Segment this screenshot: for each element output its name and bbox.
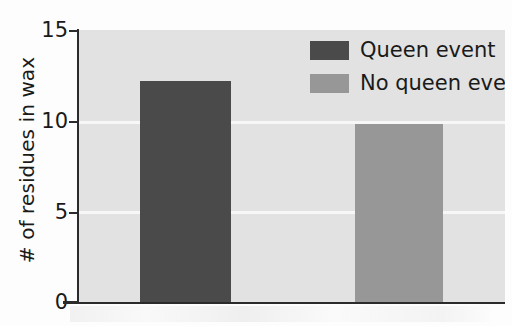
y-tick-label-0: 0 (28, 292, 68, 313)
legend-swatch-no-queen-event (310, 74, 349, 93)
legend: Queen event No queen event (310, 35, 505, 98)
legend-item-queen-event: Queen event (310, 35, 505, 65)
scan-artifact (70, 306, 490, 322)
plot-area: Queen event No queen event (79, 30, 505, 302)
bar-no-queen-event (355, 124, 443, 302)
bar-queen-event (140, 81, 231, 302)
bar-chart: # of residues in wax 15 10 5 0 Queen eve… (0, 0, 512, 326)
y-tick-label-10: 10 (28, 111, 68, 132)
y-tick-label-5: 5 (28, 202, 68, 223)
legend-item-no-queen-event: No queen event (310, 68, 505, 98)
y-axis-tick-labels: 15 10 5 0 (22, 0, 68, 326)
legend-label-no-queen-event: No queen event (360, 73, 505, 94)
y-tick-label-15: 15 (28, 20, 68, 41)
legend-swatch-queen-event (310, 41, 349, 60)
legend-label-queen-event: Queen event (360, 40, 495, 61)
